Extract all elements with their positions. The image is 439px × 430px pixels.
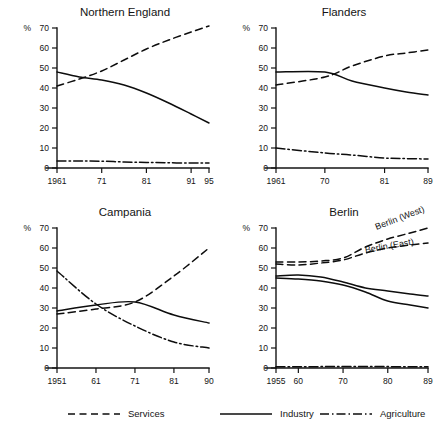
y-tick-label: 10 (259, 343, 269, 353)
chart-svg: Campania010203040506070%195161718190 (0, 200, 219, 396)
y-tick-label: 60 (259, 243, 269, 253)
y-tick-label: 70 (259, 23, 269, 33)
x-tick-label: 1961 (267, 176, 286, 186)
chart-legend: ServicesIndustryAgriculture (0, 400, 439, 430)
panel-flanders: Flanders010203040506070%1961708189 (219, 0, 438, 196)
series-line-industry (57, 72, 209, 123)
panel-campania: Campania010203040506070%195161718190 (0, 200, 219, 396)
series-line-agriculture (57, 161, 209, 163)
x-tick-label: 60 (294, 376, 304, 386)
y-axis-unit-label: % (242, 23, 250, 33)
y-tick-label: 60 (259, 43, 269, 53)
y-tick-label: 10 (259, 143, 269, 153)
series-line-industry (276, 275, 428, 296)
legend-label-industry: Industry (280, 408, 314, 419)
y-tick-label: 30 (40, 303, 50, 313)
legend-label-services: Services (128, 408, 165, 419)
x-tick-label: 1951 (48, 376, 67, 386)
y-tick-label: 40 (40, 83, 50, 93)
chart-svg: Berlin010203040506070%195560708089Berlin… (219, 200, 438, 396)
y-tick-label: 40 (259, 83, 269, 93)
x-tick-label: 71 (97, 176, 107, 186)
chart-svg: Flanders010203040506070%1961708189 (219, 0, 438, 196)
y-tick-label: 30 (259, 103, 269, 113)
x-tick-label: 91 (186, 176, 196, 186)
y-tick-label: 10 (40, 343, 50, 353)
y-tick-label: 20 (259, 123, 269, 133)
y-tick-label: 10 (40, 143, 50, 153)
y-axis-unit-label: % (23, 23, 31, 33)
y-axis-unit-label: % (242, 223, 250, 233)
y-tick-label: 60 (40, 43, 50, 53)
series-line-agriculture (276, 148, 428, 159)
series-line-industry (57, 302, 209, 323)
figure-multi-panel-chart: Northern England010203040506070%19617181… (0, 0, 439, 430)
y-tick-label: 20 (40, 123, 50, 133)
y-tick-label: 40 (40, 283, 50, 293)
x-tick-label: 81 (169, 376, 179, 386)
y-tick-label: 0 (263, 363, 268, 373)
panel-title: Berlin (329, 206, 358, 218)
chart-svg: Northern England010203040506070%19617181… (0, 0, 219, 196)
series-line-services (57, 248, 209, 314)
series-line-services (276, 50, 428, 85)
x-tick-label: 80 (383, 376, 393, 386)
y-tick-label: 20 (259, 323, 269, 333)
y-tick-label: 40 (259, 283, 269, 293)
x-tick-label: 1955 (267, 376, 286, 386)
y-tick-label: 50 (40, 63, 50, 73)
y-tick-label: 50 (259, 263, 269, 273)
series-annotation: Berlin (West) (374, 204, 426, 232)
x-tick-label: 71 (130, 376, 140, 386)
y-tick-label: 30 (40, 103, 50, 113)
y-tick-label: 60 (40, 243, 50, 253)
series-line-agriculture (57, 271, 209, 348)
series-line-industry (276, 71, 428, 95)
legend-label-agriculture: Agriculture (380, 408, 425, 419)
x-tick-label: 61 (91, 376, 101, 386)
y-tick-label: 0 (44, 363, 49, 373)
y-axis-unit-label: % (23, 223, 31, 233)
x-tick-label: 90 (204, 376, 214, 386)
y-tick-label: 50 (40, 263, 50, 273)
x-tick-label: 70 (320, 176, 330, 186)
y-tick-label: 30 (259, 303, 269, 313)
panel-title: Flanders (322, 6, 367, 18)
x-tick-label: 70 (338, 376, 348, 386)
x-tick-label: 1961 (48, 176, 67, 186)
y-tick-label: 20 (40, 323, 50, 333)
panel-title: Campania (99, 206, 152, 218)
panel-berlin: Berlin010203040506070%195560708089Berlin… (219, 200, 438, 396)
x-tick-label: 95 (204, 176, 214, 186)
y-tick-label: 70 (259, 223, 269, 233)
y-tick-label: 70 (40, 223, 50, 233)
panel-northern-england: Northern England010203040506070%19617181… (0, 0, 219, 196)
legend-svg: ServicesIndustryAgriculture (0, 400, 439, 430)
x-tick-label: 89 (423, 176, 433, 186)
x-tick-label: 81 (380, 176, 390, 186)
y-tick-label: 0 (44, 163, 49, 173)
y-tick-label: 70 (40, 23, 50, 33)
x-tick-label: 89 (423, 376, 433, 386)
panel-title: Northern England (80, 6, 170, 18)
y-tick-label: 0 (263, 163, 268, 173)
x-tick-label: 81 (142, 176, 152, 186)
y-tick-label: 50 (259, 63, 269, 73)
